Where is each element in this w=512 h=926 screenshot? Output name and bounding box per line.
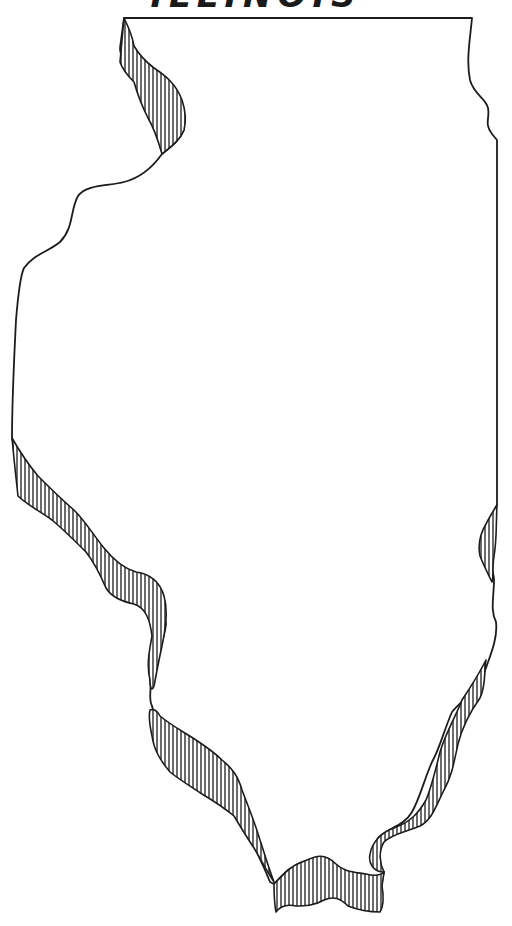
state-outline — [12, 18, 497, 884]
illinois-map — [0, 0, 512, 926]
